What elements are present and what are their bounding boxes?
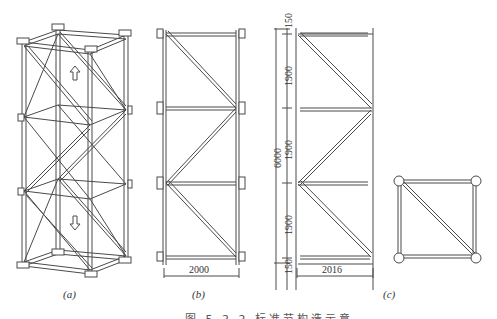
panel-label-a: (a) — [63, 288, 76, 300]
segment-dimension-top: 150 — [283, 13, 294, 28]
panel-b-elevation — [157, 29, 245, 278]
segment-dimension-bottom: 150 — [283, 259, 294, 274]
panel-label-c: (c) — [383, 288, 395, 300]
total-height-dimension: 6000 — [272, 148, 283, 168]
structure-drawing — [0, 0, 497, 319]
segment-dimension-1: 1900 — [283, 66, 294, 86]
panel-a-tower — [17, 24, 132, 277]
figure-caption: 图 5.2.2 标准节构造示意 — [185, 310, 353, 319]
width-dimension-c: 2016 — [322, 264, 342, 275]
segment-dimension-2: 1900 — [283, 140, 294, 160]
width-dimension-b: 2000 — [189, 264, 209, 275]
segment-dimension-3: 1900 — [283, 215, 294, 235]
down-arrow-icon — [70, 216, 80, 230]
panel-c-plan — [394, 176, 481, 263]
up-arrow-icon — [70, 66, 80, 80]
panel-label-b: (b) — [192, 288, 205, 300]
